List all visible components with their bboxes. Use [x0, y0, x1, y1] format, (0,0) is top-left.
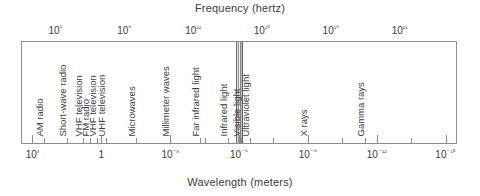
bottom-axis-major-tick — [308, 135, 309, 143]
band-tick — [365, 138, 366, 144]
bottom-axis-tick-label: 10⁻⁹ — [299, 150, 317, 160]
bottom-axis-tick-label: 1 — [99, 150, 105, 160]
band-tick — [250, 138, 251, 144]
top-axis-tick-label: 10¹² — [185, 26, 201, 36]
band-label: Ultraviolet light — [241, 74, 251, 137]
band-label: AM radio — [34, 98, 44, 137]
band-label: Far infrared light — [190, 67, 200, 137]
bottom-axis-minor-tick — [205, 138, 206, 143]
bottom-axis-minor-tick — [136, 138, 137, 143]
top-axis-tick-label: 10¹⁵ — [254, 26, 270, 36]
band-tick — [228, 138, 229, 144]
bottom-axis-major-tick — [239, 135, 240, 143]
bottom-axis-major-tick — [446, 135, 447, 143]
band-label: Microwaves — [126, 86, 136, 137]
band-label: Short-wave radio — [57, 64, 67, 137]
band-label: X rays — [298, 109, 308, 137]
band-tick — [241, 138, 242, 144]
bottom-axis-tick-label: 10⁻⁶ — [230, 150, 248, 160]
band-tick — [97, 138, 98, 144]
bottom-axis-minor-tick — [411, 138, 412, 143]
band-label: Gamma rays — [356, 82, 366, 137]
bottom-axis-major-tick — [170, 135, 171, 143]
top-axis-tick-label: 10¹⁸ — [323, 26, 339, 36]
top-axis-tick-labels: 10⁶10⁹10¹²10¹⁵10¹⁸10²¹ — [21, 26, 457, 38]
bottom-axis-major-tick — [32, 135, 33, 143]
band-tick — [90, 138, 91, 144]
bottom-axis-major-tick — [101, 135, 102, 143]
band-label: Millimeter waves — [161, 66, 171, 137]
bottom-axis-tick-labels: 10³110⁻³10⁻⁶10⁻⁹10⁻¹²10⁻¹⁵ — [21, 150, 457, 164]
band-tick — [106, 138, 107, 144]
spectrum-band-labels: AM radioShort-wave radioVHF televisionFM… — [21, 41, 457, 144]
bottom-axis-tick-label: 10⁻¹⁵ — [435, 150, 455, 160]
bottom-axis-minor-tick — [342, 138, 343, 143]
bottom-axis-tick-label: 10⁻³ — [161, 150, 178, 160]
band-label: Infrared light — [218, 83, 228, 137]
band-tick — [200, 138, 201, 144]
bottom-axis-minor-tick — [273, 138, 274, 143]
top-axis-tick-label: 10⁹ — [117, 26, 131, 36]
bottom-axis-tick-label: 10³ — [26, 150, 39, 160]
top-axis-title: Frequency (hertz) — [0, 2, 480, 14]
band-label: UHF television — [96, 74, 106, 137]
bottom-axis-major-tick — [377, 135, 378, 143]
bottom-axis-tick-label: 10⁻¹² — [367, 150, 387, 160]
top-axis-tick-label: 10⁶ — [48, 26, 62, 36]
bottom-axis-minor-tick — [67, 138, 68, 143]
bottom-axis-title: Wavelength (meters) — [0, 176, 480, 188]
band-tick — [44, 138, 45, 144]
band-tick — [83, 138, 84, 144]
top-axis-tick-label: 10²¹ — [392, 26, 408, 36]
